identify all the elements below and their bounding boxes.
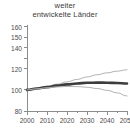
series-line [27, 87, 127, 97]
y-axis-tick-label: 150 [0, 34, 22, 41]
chart-container: weiter entwickelte Länder 80100120140150… [0, 0, 130, 137]
series-layer [27, 70, 127, 96]
y-axis-tick-label: 100 [0, 86, 22, 93]
y-axis-tick-label: 120 [0, 65, 22, 72]
axis-layer [24, 25, 128, 115]
y-axis-tick-label: 80 [0, 108, 22, 115]
x-axis-tick-label: 2050 [114, 117, 130, 124]
y-axis-tick-label: 140 [0, 44, 22, 51]
y-axis-tick-label: 160 [0, 23, 22, 30]
